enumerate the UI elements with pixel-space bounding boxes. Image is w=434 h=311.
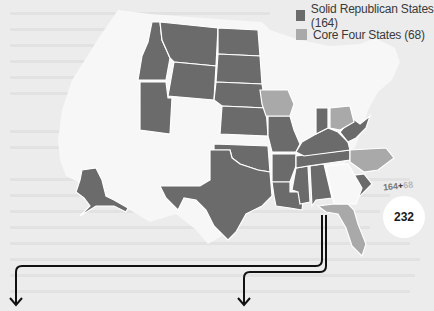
state-south-dakota [216,54,262,84]
state-iowa [260,90,294,116]
state-kansas [220,106,268,136]
legend-swatch-solid-republican [296,10,305,21]
us-map [0,0,434,311]
state-north-carolina [350,148,394,172]
legend-swatch-core-four [296,29,307,40]
sum-addend-b: 68 [403,179,414,190]
legend: Solid Republican States (164) Core Four … [296,6,434,44]
state-utah [140,82,172,134]
state-north-dakota [218,28,260,56]
flow-arrows [10,215,326,305]
arrow-left [16,215,322,304]
arrow-right [244,215,326,304]
legend-label: Core Four States (68) [313,28,425,42]
total-value: 232 [394,210,414,224]
legend-item-solid-republican: Solid Republican States (164) [296,6,434,25]
sum-addend-a: 164 [383,181,399,193]
total-badge: 232 [383,196,425,238]
state-nebraska [214,82,266,108]
legend-item-core-four: Core Four States (68) [296,25,434,44]
legend-label: Solid Republican States (164) [311,2,434,30]
state-wyoming [168,62,216,100]
